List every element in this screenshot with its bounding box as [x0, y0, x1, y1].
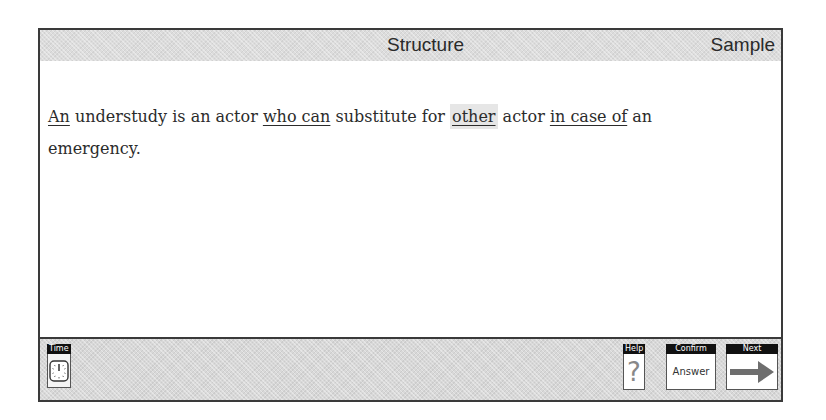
help-label: Help: [623, 344, 645, 354]
sentence-text: understudy is an actor: [70, 107, 263, 126]
mode-label: Sample: [711, 34, 775, 56]
question-mark-icon: ?: [623, 354, 645, 390]
next-label: Next: [726, 344, 778, 354]
footer-toolbar: Time: [40, 337, 781, 400]
sentence-text: actor: [498, 107, 550, 126]
answer-choice-d[interactable]: in case of: [550, 107, 627, 126]
question-sentence: An understudy is an actor who can substi…: [48, 101, 748, 165]
question-area: An understudy is an actor who can substi…: [40, 61, 781, 341]
right-arrow-icon: [726, 354, 778, 390]
sentence-text: substitute for: [330, 107, 450, 126]
confirm-label: Confirm: [666, 344, 716, 354]
answer-label: Answer: [673, 366, 710, 377]
test-window: Structure Sample An understudy is an act…: [38, 28, 783, 402]
section-title: Structure: [40, 34, 781, 56]
time-label: Time: [47, 344, 71, 354]
clock-icon: [47, 354, 71, 388]
answer-choice-c[interactable]: other: [450, 104, 497, 129]
answer-choice-a[interactable]: An: [48, 107, 70, 126]
answer-choice-b[interactable]: who can: [263, 107, 331, 126]
next-button[interactable]: Next: [726, 344, 778, 390]
time-button[interactable]: Time: [47, 344, 71, 388]
header-bar: Structure Sample: [40, 30, 781, 62]
confirm-body: Answer: [666, 354, 716, 390]
help-button[interactable]: Help ?: [623, 344, 645, 390]
confirm-answer-button[interactable]: Confirm Answer: [666, 344, 716, 390]
